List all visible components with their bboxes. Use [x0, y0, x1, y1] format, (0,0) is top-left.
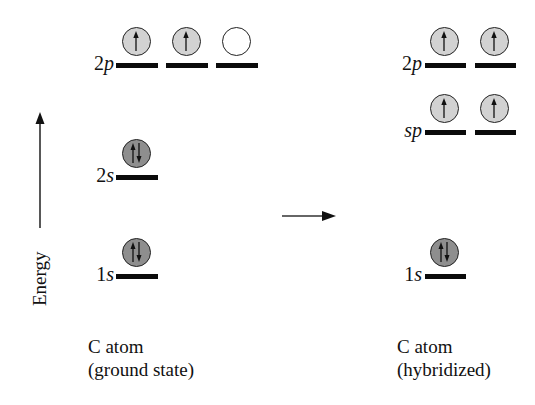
empty-orbital-icon	[222, 27, 251, 56]
level-label-1s: 1s	[386, 264, 422, 284]
hybridized-caption: C atom (hybridized)	[397, 335, 491, 381]
electron-pair-icon	[122, 238, 151, 267]
level-label-1s: 1s	[78, 264, 114, 284]
energy-arrow-icon	[30, 110, 50, 230]
orbital-line-2p-2	[475, 63, 516, 68]
orbital-line-2p-2	[166, 63, 208, 68]
level-label-2p: 2p	[78, 53, 114, 73]
caption-line-1: C atom	[88, 335, 194, 358]
electron-pair-icon	[430, 238, 459, 267]
electron-up-icon	[430, 27, 459, 56]
orbital-line-sp-2	[475, 130, 516, 135]
energy-axis-label: Energy	[29, 251, 51, 306]
orbital-line-2p-3	[216, 63, 258, 68]
level-label-2p: 2p	[386, 53, 422, 73]
electron-pair-icon	[122, 139, 151, 168]
orbital-line-1s	[116, 274, 158, 279]
electron-up-icon	[122, 27, 151, 56]
caption-line-2: (ground state)	[88, 358, 194, 381]
electron-up-icon	[480, 94, 509, 123]
orbital-line-sp-1	[425, 130, 466, 135]
transition-arrow-icon	[280, 208, 338, 224]
orbital-line-2s	[116, 175, 158, 180]
caption-line-1: C atom	[397, 335, 491, 358]
caption-line-2: (hybridized)	[397, 358, 491, 381]
orbital-line-2p-1	[116, 63, 158, 68]
electron-up-icon	[430, 94, 459, 123]
orbital-line-1s	[425, 274, 466, 279]
ground-state-caption: C atom (ground state)	[88, 335, 194, 381]
electron-up-icon	[172, 27, 201, 56]
level-label-sp: sp	[386, 120, 422, 140]
orbital-line-2p-1	[425, 63, 466, 68]
level-label-2s: 2s	[78, 165, 114, 185]
electron-up-icon	[480, 27, 509, 56]
